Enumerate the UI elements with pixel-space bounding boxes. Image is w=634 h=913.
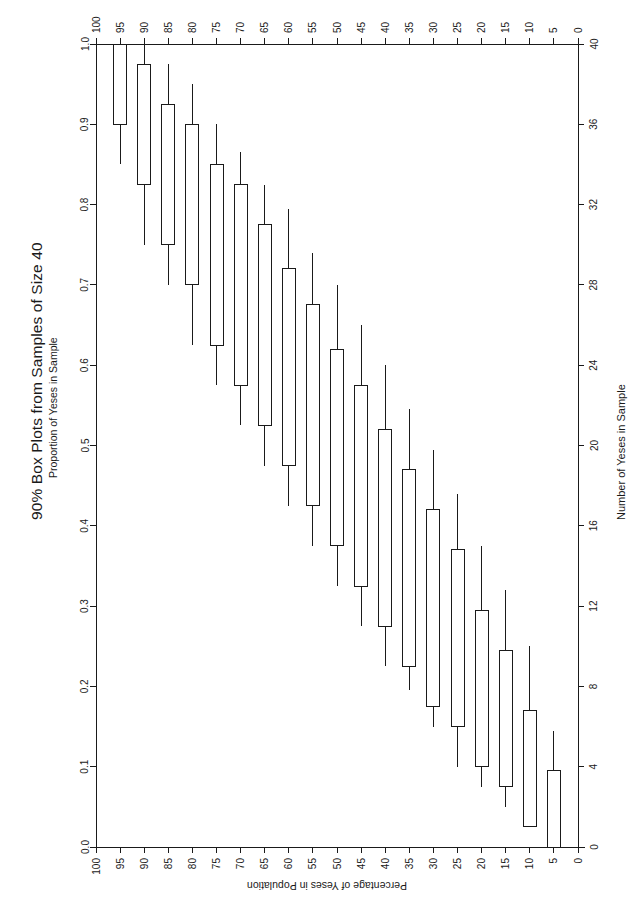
bottom-axis-tick-label: 50 [332, 858, 343, 870]
box [547, 771, 560, 847]
right-axis-tick-label: 24 [589, 359, 600, 371]
box [331, 349, 344, 546]
box-plot-item [306, 253, 319, 546]
top-axis-tick-label: 35 [404, 21, 415, 33]
bottom-axis-tick-label: 75 [211, 858, 222, 870]
box-plot-item [210, 124, 223, 385]
top-axis-tick-label: 90 [139, 21, 150, 33]
top-axis-tick-label: 45 [356, 21, 367, 33]
bottom-axis-tick-label: 80 [187, 858, 198, 870]
left-axis-tick-label: 0.0 [80, 840, 91, 854]
bottom-axis-tick-label: 45 [356, 858, 367, 870]
bottom-axis-tick-label: 100 [91, 858, 102, 875]
left-axis-tick-label: 1.0 [80, 37, 91, 51]
bottom-axis-tick-label: 55 [307, 858, 318, 870]
box-plot-canvas: 0.00.10.20.30.40.50.60.70.80.91.00481216… [0, 0, 634, 913]
right-axis-tick-label: 32 [589, 199, 600, 211]
top-axis-tick-label: 10 [524, 21, 535, 33]
left-axis-tick-label: 0.6 [80, 358, 91, 372]
top-axis-tick-label: 40 [380, 21, 391, 33]
box-plot-item [114, 44, 127, 164]
top-axis-tick-label: 95 [115, 21, 126, 33]
bottom-axis-tick-label: 0 [573, 858, 584, 864]
box-plot-item [331, 285, 344, 586]
box-plot-item [355, 325, 368, 626]
bottom-axis-tick-label: 90 [139, 858, 150, 870]
top-axis-tick-label: 85 [163, 21, 174, 33]
top-axis-tick-label: 80 [187, 21, 198, 33]
bottom-axis-tick-label: 25 [452, 858, 463, 870]
box [499, 650, 512, 787]
box-plot-item [138, 44, 151, 245]
left-axis-tick-label: 0.8 [80, 197, 91, 211]
right-axis-tick-label: 12 [589, 600, 600, 612]
right-axis-tick-label: 28 [589, 279, 600, 291]
box [186, 124, 199, 285]
box-plot-item [234, 152, 247, 425]
top-axis-tick-label: 15 [500, 21, 511, 33]
box-plot-item [162, 64, 175, 285]
bottom-axis-tick-label: 5 [548, 858, 559, 864]
top-axis-tick-label: 25 [452, 21, 463, 33]
box [523, 710, 536, 826]
box [379, 429, 392, 626]
box [282, 269, 295, 466]
top-axis-tick-label: 50 [332, 21, 343, 33]
bottom-axis-tick-label: 30 [428, 858, 439, 870]
bottom-axis-tick-label: 65 [259, 858, 270, 870]
right-axis-tick-label: 8 [589, 683, 600, 689]
box [162, 104, 175, 245]
box [403, 470, 416, 667]
right-axis-tick-label: 0 [589, 844, 600, 850]
box-plot-item [547, 731, 560, 847]
box-plot-item [499, 590, 512, 807]
left-axis-tick-label: 0.1 [80, 759, 91, 773]
plot-page: 90% Box Plots from Samples of Size 40 Pr… [0, 0, 634, 913]
left-axis-tick-label: 0.7 [80, 278, 91, 292]
top-axis-tick-label: 70 [235, 21, 246, 33]
box [234, 185, 247, 386]
bottom-axis-tick-label: 85 [163, 858, 174, 870]
left-axis-tick-label: 0.2 [80, 679, 91, 693]
bottom-axis-tick-label: 10 [524, 858, 535, 870]
box-plot-item [523, 646, 536, 827]
box-plot-item [475, 546, 488, 787]
top-axis-tick-label: 60 [283, 21, 294, 33]
box [355, 385, 368, 586]
top-axis-tick-label: 100 [91, 16, 102, 33]
box [306, 305, 319, 506]
top-axis-tick-label: 0 [573, 27, 584, 33]
bottom-axis-tick-label: 70 [235, 858, 246, 870]
left-axis-tick-label: 0.3 [80, 599, 91, 613]
box-plot-item [427, 450, 440, 727]
box-series [90, 44, 585, 847]
box [210, 164, 223, 345]
bottom-axis-tick-label: 40 [380, 858, 391, 870]
right-axis-tick-label: 20 [589, 440, 600, 452]
box-plot-item [403, 409, 416, 690]
box [451, 550, 464, 727]
top-axis-tick-label: 5 [548, 27, 559, 33]
right-axis-tick-label: 40 [589, 38, 600, 50]
box-plot-item [186, 84, 199, 345]
box-plot-item [379, 365, 392, 666]
box [475, 610, 488, 767]
bottom-axis-tick-label: 20 [476, 858, 487, 870]
top-axis-tick-label: 55 [307, 21, 318, 33]
box-plot-item [451, 494, 464, 767]
box [138, 64, 151, 184]
box [114, 44, 127, 124]
left-axis-tick-label: 0.5 [80, 438, 91, 452]
bottom-axis-tick-label: 35 [404, 858, 415, 870]
box [427, 510, 440, 707]
right-axis-tick-label: 36 [589, 118, 600, 130]
box-plot-item [282, 209, 295, 506]
left-axis-tick-label: 0.4 [80, 518, 91, 532]
bottom-axis-tick-label: 60 [283, 858, 294, 870]
top-axis-tick-label: 75 [211, 21, 222, 33]
top-axis-tick-label: 30 [428, 21, 439, 33]
right-axis-tick-label: 4 [589, 763, 600, 769]
bottom-axis-tick-label: 95 [115, 858, 126, 870]
bottom-axis-tick-label: 15 [500, 858, 511, 870]
right-axis-tick-label: 16 [589, 520, 600, 532]
